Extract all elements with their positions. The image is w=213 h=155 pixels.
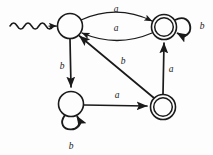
edge-label-q3-q0: b bbox=[121, 56, 126, 66]
transition-q1-q0-a bbox=[82, 33, 152, 41]
edge-label-q1-q0: a bbox=[114, 23, 119, 33]
state-circle-q2[interactable] bbox=[59, 92, 84, 117]
transition-q2-q3-a bbox=[84, 105, 147, 106]
state-q1-accepting[interactable] bbox=[152, 15, 177, 40]
edge-label-q2-q3: a bbox=[115, 90, 120, 100]
edge-label-q0-q1: a bbox=[114, 4, 119, 14]
edge-label-self-loop-q1: b bbox=[200, 21, 205, 31]
edge-label-q3-q1: a bbox=[169, 64, 174, 74]
edge-path-q2-q3 bbox=[84, 105, 147, 106]
transition-q3-q1-a bbox=[163, 43, 164, 94]
edge-path-q0-q2 bbox=[70, 39, 71, 87]
edge-label-q0-q2: b bbox=[60, 61, 65, 71]
automaton-svg: a a b b b a a b bbox=[0, 0, 213, 155]
state-q0-start[interactable] bbox=[58, 14, 83, 39]
edge-path-q1-q0 bbox=[82, 33, 152, 41]
edge-path-q3-q0 bbox=[80, 36, 155, 98]
automaton-diagram-canvas: a a b b b a a b bbox=[0, 0, 213, 155]
transition-q0-q2-b bbox=[70, 39, 71, 87]
start-marker-arrow bbox=[10, 23, 57, 29]
transition-q3-q0-b bbox=[80, 36, 155, 98]
state-q3-accepting[interactable] bbox=[151, 95, 176, 120]
edge-path-q3-q1 bbox=[163, 43, 164, 94]
state-circle-q0[interactable] bbox=[58, 14, 83, 39]
edge-label-self-loop-q2: b bbox=[69, 141, 74, 151]
state-q2[interactable] bbox=[59, 92, 84, 117]
